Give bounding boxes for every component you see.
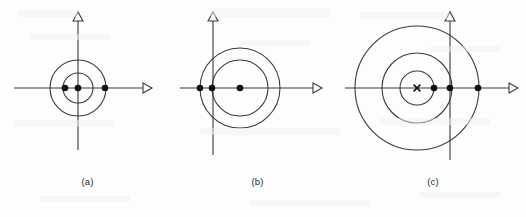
pole-zero-dot xyxy=(102,85,109,92)
pole-zero-dot xyxy=(62,85,69,92)
x-axis-arrow-icon xyxy=(143,83,152,93)
pole-zero-dot xyxy=(237,85,244,92)
y-axis-arrow-icon xyxy=(208,12,218,21)
pole-zero-dot xyxy=(209,85,216,92)
pole-zero-dot xyxy=(475,85,482,92)
panel-a-caption: (a) xyxy=(0,176,175,187)
pole-zero-dot xyxy=(447,85,454,92)
y-axis-arrow-icon xyxy=(73,12,83,21)
figure-root: (a) (b) xyxy=(0,0,526,217)
y-axis-arrow-icon xyxy=(445,12,455,21)
pole-zero-dot xyxy=(431,85,438,92)
panel-c-caption: (c) xyxy=(340,176,526,187)
panel-c: (c) xyxy=(340,0,526,217)
panel-b-caption: (b) xyxy=(175,176,340,187)
x-axis-arrow-icon xyxy=(509,83,518,93)
x-axis-arrow-icon xyxy=(313,83,322,93)
panel-b: (b) xyxy=(175,0,340,217)
panel-a: (a) xyxy=(0,0,175,217)
pole-zero-dot xyxy=(75,85,82,92)
pole-zero-dot xyxy=(197,85,204,92)
